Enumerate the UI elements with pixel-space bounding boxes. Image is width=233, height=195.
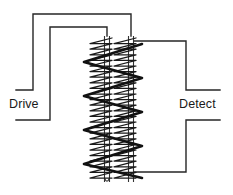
drive-label: Drive bbox=[9, 98, 39, 111]
coil-schematic-diagram: Drive Detect bbox=[0, 0, 233, 195]
detect-upper-wire bbox=[134, 41, 220, 90]
detect-lower-wire bbox=[134, 120, 220, 172]
detect-label: Detect bbox=[179, 98, 216, 111]
